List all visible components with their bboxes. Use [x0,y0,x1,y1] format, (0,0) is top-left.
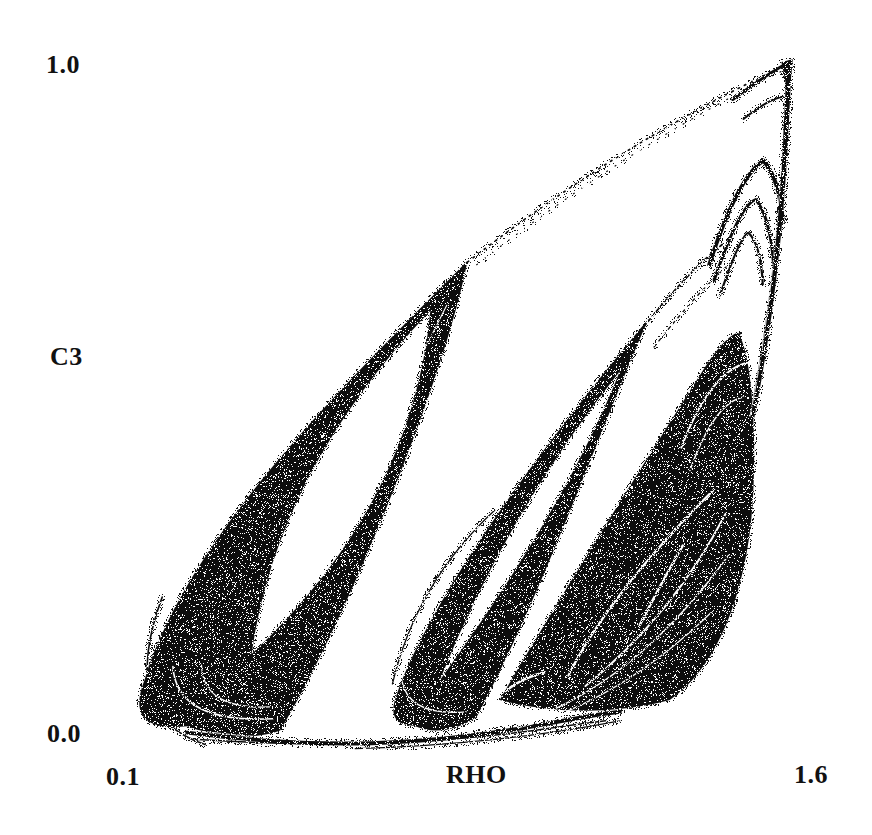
x-axis-left-tick-label: 0.1 [106,764,140,790]
y-axis-bottom-tick-label: 0.0 [47,721,81,747]
y-axis-title: C3 [50,344,83,370]
x-axis-title: RHO [446,762,507,788]
y-axis-top-tick-label: 1.0 [46,52,80,78]
attractor-canvas [105,55,820,750]
x-axis-right-tick-label: 1.6 [794,762,828,788]
scanned-figure-page: 1.0 C3 0.0 0.1 RHO 1.6 [0,0,872,835]
